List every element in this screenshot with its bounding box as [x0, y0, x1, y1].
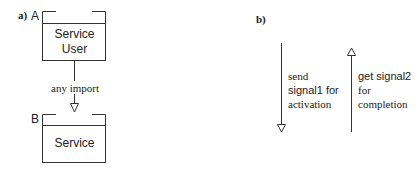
- connector-label: any import: [44, 81, 106, 95]
- import-arrowhead-icon: [71, 104, 79, 113]
- up-arrow-caption: get signal2 for completion: [358, 69, 411, 111]
- box-b-letter: B: [31, 112, 39, 126]
- down-arrow-caption: send signal1 for activation: [288, 69, 339, 111]
- panel-a-label: a): [18, 9, 27, 21]
- panel-b-label: b): [256, 13, 266, 25]
- box-a-title: Service User: [43, 27, 106, 57]
- box-b-title: Service: [43, 136, 106, 151]
- down-arrowhead-icon: [278, 125, 286, 133]
- box-a-letter: A: [31, 9, 39, 23]
- up-arrowhead-icon: [348, 48, 356, 56]
